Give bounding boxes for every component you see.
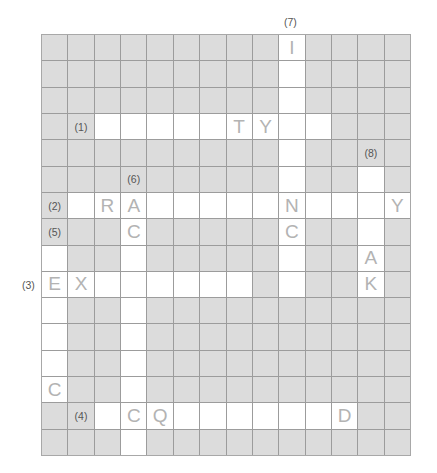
open-cell[interactable] — [121, 377, 146, 402]
open-cell[interactable] — [121, 246, 146, 271]
open-cell[interactable] — [279, 167, 304, 192]
blocked-cell — [147, 88, 172, 113]
open-cell[interactable]: C — [121, 219, 146, 244]
open-cell[interactable]: C — [42, 377, 67, 402]
cell-letter: A — [127, 195, 140, 217]
blocked-cell — [200, 140, 225, 165]
open-cell[interactable] — [174, 403, 199, 428]
open-cell[interactable] — [95, 114, 120, 139]
open-cell[interactable]: A — [121, 193, 146, 218]
open-cell[interactable] — [42, 246, 67, 271]
open-cell[interactable] — [253, 403, 278, 428]
blocked-cell — [174, 324, 199, 349]
blocked-cell — [279, 298, 304, 323]
open-cell[interactable] — [358, 167, 383, 192]
blocked-cell — [358, 403, 383, 428]
open-cell[interactable]: C — [279, 219, 304, 244]
blocked-cell — [253, 246, 278, 271]
blocked-cell — [227, 430, 252, 455]
open-cell[interactable] — [121, 298, 146, 323]
blocked-cell — [147, 324, 172, 349]
open-cell[interactable] — [200, 272, 225, 297]
open-cell[interactable]: A — [358, 246, 383, 271]
open-cell[interactable] — [95, 403, 120, 428]
open-cell[interactable] — [42, 324, 67, 349]
open-cell[interactable] — [174, 114, 199, 139]
open-cell[interactable] — [121, 430, 146, 455]
open-cell[interactable] — [279, 246, 304, 271]
open-cell[interactable] — [279, 61, 304, 86]
open-cell[interactable] — [227, 272, 252, 297]
blocked-cell — [332, 61, 357, 86]
blocked-cell: (1) — [68, 114, 93, 139]
blocked-cell — [332, 35, 357, 60]
blocked-cell — [227, 167, 252, 192]
open-cell[interactable] — [42, 351, 67, 376]
blocked-cell — [174, 246, 199, 271]
open-cell[interactable]: C — [121, 403, 146, 428]
open-cell[interactable] — [227, 193, 252, 218]
open-cell[interactable] — [121, 351, 146, 376]
open-cell[interactable] — [174, 193, 199, 218]
open-cell[interactable] — [200, 193, 225, 218]
blocked-cell — [306, 272, 331, 297]
blocked-cell — [306, 351, 331, 376]
open-cell[interactable]: R — [95, 193, 120, 218]
open-cell[interactable] — [121, 324, 146, 349]
cell-letter: I — [289, 37, 294, 59]
blocked-cell — [253, 35, 278, 60]
blocked-cell — [147, 351, 172, 376]
blocked-cell — [279, 377, 304, 402]
open-cell[interactable]: Q — [147, 403, 172, 428]
blocked-cell — [332, 140, 357, 165]
open-cell[interactable]: T — [227, 114, 252, 139]
open-cell[interactable] — [279, 114, 304, 139]
open-cell[interactable]: N — [279, 193, 304, 218]
open-cell[interactable] — [279, 272, 304, 297]
open-cell[interactable] — [147, 193, 172, 218]
open-cell[interactable] — [306, 193, 331, 218]
blocked-cell — [42, 140, 67, 165]
open-cell[interactable] — [279, 140, 304, 165]
open-cell[interactable]: Y — [385, 193, 410, 218]
open-cell[interactable] — [227, 403, 252, 428]
open-cell[interactable]: D — [332, 403, 357, 428]
open-cell[interactable] — [95, 272, 120, 297]
blocked-cell — [227, 61, 252, 86]
blocked-cell — [332, 114, 357, 139]
open-cell[interactable] — [279, 403, 304, 428]
open-cell[interactable] — [306, 114, 331, 139]
blocked-cell — [95, 88, 120, 113]
blocked-cell — [200, 430, 225, 455]
open-cell[interactable]: K — [358, 272, 383, 297]
blocked-cell — [200, 88, 225, 113]
open-cell[interactable]: X — [68, 272, 93, 297]
open-cell[interactable] — [306, 403, 331, 428]
open-cell[interactable] — [200, 403, 225, 428]
open-cell[interactable] — [121, 114, 146, 139]
cell-letter: T — [233, 116, 245, 138]
open-cell[interactable] — [174, 272, 199, 297]
open-cell[interactable] — [68, 193, 93, 218]
open-cell[interactable]: I — [279, 35, 304, 60]
open-cell[interactable] — [279, 88, 304, 113]
clue-number-label: (1) — [75, 121, 88, 133]
open-cell[interactable]: E — [42, 272, 67, 297]
blocked-cell — [306, 167, 331, 192]
blocked-cell — [121, 88, 146, 113]
open-cell[interactable] — [147, 114, 172, 139]
blocked-cell — [227, 219, 252, 244]
blocked-cell — [200, 35, 225, 60]
open-cell[interactable] — [147, 272, 172, 297]
blocked-cell — [174, 61, 199, 86]
blocked-cell — [332, 167, 357, 192]
open-cell[interactable] — [358, 219, 383, 244]
open-cell[interactable] — [332, 193, 357, 218]
open-cell[interactable]: Y — [253, 114, 278, 139]
open-cell[interactable] — [42, 298, 67, 323]
open-cell[interactable] — [121, 272, 146, 297]
open-cell[interactable] — [253, 193, 278, 218]
crossword-grid: I(1)TY(8)(6)(2)RANY(5)CCAEXKC(4)CQD — [41, 34, 411, 456]
open-cell[interactable] — [200, 114, 225, 139]
open-cell[interactable] — [358, 193, 383, 218]
